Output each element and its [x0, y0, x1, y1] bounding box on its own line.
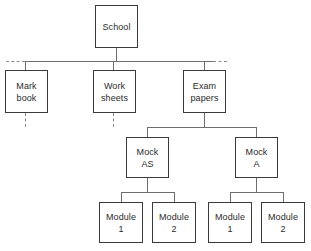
node-mock-as-module-2-label-line1: Module — [159, 211, 189, 223]
edge-bus-to-work-sheets — [113, 61, 114, 70]
node-mock-a-module-1-label-line2: 1 — [227, 223, 232, 235]
node-mock-a-module-2-label-line2: 2 — [280, 223, 285, 235]
node-mock-a-label-line1: Mock — [246, 146, 268, 158]
edge-bus-mock-a-modules — [230, 192, 283, 193]
node-mock-as-label-line1: Mock — [137, 146, 159, 158]
edge-school-to-bus — [116, 47, 117, 61]
node-mock-a-module-1-label-line1: Module — [215, 211, 245, 223]
node-exam-papers[interactable]: Exam papers — [183, 70, 226, 113]
node-mock-a[interactable]: Mock A — [235, 137, 278, 178]
edge-bus-mock-as-modules — [121, 192, 174, 193]
node-mock-a-module-1[interactable]: Module 1 — [208, 202, 252, 243]
node-school[interactable]: School — [95, 5, 138, 48]
edge-bus-to-mock-a — [256, 127, 257, 137]
node-exam-papers-label-line2: papers — [190, 92, 218, 104]
node-mock-a-module-2[interactable]: Module 2 — [261, 202, 305, 243]
edge-bus-level-2-dashed-left — [6, 61, 25, 62]
edge-bus-to-mock-as-module-1 — [121, 192, 122, 202]
edge-work-sheets-dashed-continuation — [113, 113, 114, 127]
edge-bus-to-mock-as — [147, 127, 148, 137]
edge-bus-to-mark-book — [25, 61, 26, 70]
node-mock-as-module-1[interactable]: Module 1 — [99, 202, 143, 243]
node-mock-a-label-line2: A — [253, 158, 259, 170]
tree-diagram: School Mark book Work sheets Exam papers… — [0, 0, 311, 251]
edge-bus-level-2-dashed-right — [213, 61, 227, 62]
node-mark-book[interactable]: Mark book — [5, 70, 48, 113]
edge-bus-level-2 — [25, 61, 213, 62]
edge-bus-to-mock-a-module-1 — [230, 192, 231, 202]
node-mock-as-module-1-label-line2: 1 — [118, 223, 123, 235]
node-mock-a-module-2-label-line1: Module — [268, 211, 298, 223]
node-mark-book-label-line1: Mark — [16, 80, 36, 92]
node-work-sheets[interactable]: Work sheets — [93, 70, 136, 113]
node-mark-book-label-line2: book — [17, 92, 37, 104]
node-work-sheets-label-line2: sheets — [101, 92, 128, 104]
edge-bus-to-exam-papers — [204, 61, 205, 70]
edge-mock-a-to-bus — [256, 178, 257, 192]
node-mock-as-module-1-label-line1: Module — [106, 211, 136, 223]
node-mock-as-label-line2: AS — [141, 158, 153, 170]
node-school-label: School — [102, 21, 130, 33]
node-mock-as-module-2[interactable]: Module 2 — [152, 202, 196, 243]
node-mock-as-module-2-label-line2: 2 — [171, 223, 176, 235]
node-work-sheets-label-line1: Work — [104, 80, 125, 92]
edge-mark-book-dashed-continuation — [25, 113, 26, 127]
edge-bus-to-mock-as-module-2 — [174, 192, 175, 202]
node-exam-papers-label-line1: Exam — [193, 80, 216, 92]
node-mock-as[interactable]: Mock AS — [126, 137, 169, 178]
edge-bus-level-3 — [147, 127, 256, 128]
edge-mock-as-to-bus — [147, 178, 148, 192]
edge-exam-papers-to-bus — [204, 113, 205, 127]
edge-bus-to-mock-a-module-2 — [283, 192, 284, 202]
